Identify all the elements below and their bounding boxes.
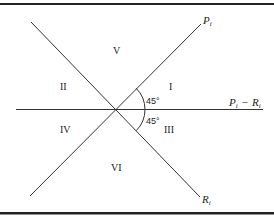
upper-angle-label: 45° <box>146 96 160 106</box>
upper-angle-arc <box>136 88 145 109</box>
region-label-ii: II <box>60 81 67 92</box>
p-axis-label: Pi <box>202 14 212 28</box>
r-axis-label: Ri <box>201 193 211 207</box>
top-rule <box>0 3 274 5</box>
quadrant-diagram: 45° 45° V II I IV III VI Pi Ri Pi−Ri <box>0 0 274 216</box>
lower-angle-label: 45° <box>146 116 160 126</box>
difference-axis-label: Pi−Ri <box>228 96 261 110</box>
region-label-iv: IV <box>60 124 71 135</box>
region-label-vi: VI <box>111 162 122 173</box>
region-label-iii: III <box>164 124 174 135</box>
region-label-v: V <box>113 45 121 56</box>
lower-angle-arc <box>136 110 145 131</box>
bottom-rule <box>0 212 274 215</box>
region-label-i: I <box>169 81 172 92</box>
